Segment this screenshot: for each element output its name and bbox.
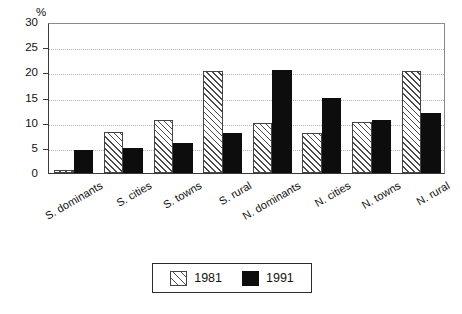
bar-1991-n-rural[interactable] [421,113,441,173]
bar-1991-s-dominants[interactable] [74,150,94,173]
bar-1981-n-towns[interactable] [352,122,372,173]
bar-1991-n-towns[interactable] [372,120,392,173]
legend-item-1991[interactable]: 1991 [242,271,294,286]
bar-1991-s-cities[interactable] [123,148,143,173]
legend-item-1981[interactable]: 1981 [170,271,222,286]
y-tick-label: 30 [8,17,38,29]
y-tick-mark [43,73,48,74]
bar-1991-s-rural[interactable] [223,133,243,173]
y-tick-label: 5 [8,143,38,155]
y-tick-mark [43,48,48,49]
bar-1991-n-dominants[interactable] [272,70,292,173]
chart-legend: 1981 1991 [152,263,312,293]
y-tick-mark [43,99,48,100]
y-tick-label: 0 [8,168,38,180]
bar-1981-n-rural[interactable] [402,71,422,173]
y-tick-mark [43,149,48,150]
y-tick-label: 15 [8,93,38,105]
y-tick-label: 25 [8,42,38,54]
bar-1981-s-cities[interactable] [104,132,124,173]
bar-1991-s-towns[interactable] [173,143,193,173]
legend-label: 1991 [266,272,294,285]
gridline [49,100,444,101]
y-tick-mark [43,124,48,125]
bar-1981-n-cities[interactable] [302,133,322,173]
bar-1981-s-rural[interactable] [203,71,223,173]
bar-1981-n-dominants[interactable] [253,123,273,173]
bar-1991-n-cities[interactable] [322,98,342,173]
legend-swatch-hatched-icon [170,271,187,286]
plot-area [48,23,445,174]
bar-1981-s-towns[interactable] [154,120,174,173]
legend-swatch-solid-icon [242,271,259,286]
bar-1981-s-dominants[interactable] [54,170,74,173]
bar-chart: % 051015202530 S. dominantsS. citiesS. t… [0,0,462,314]
legend-label: 1981 [194,272,222,285]
gridline [49,49,444,50]
y-tick-label: 10 [8,118,38,130]
gridline [49,74,444,75]
y-tick-label: 20 [8,67,38,79]
